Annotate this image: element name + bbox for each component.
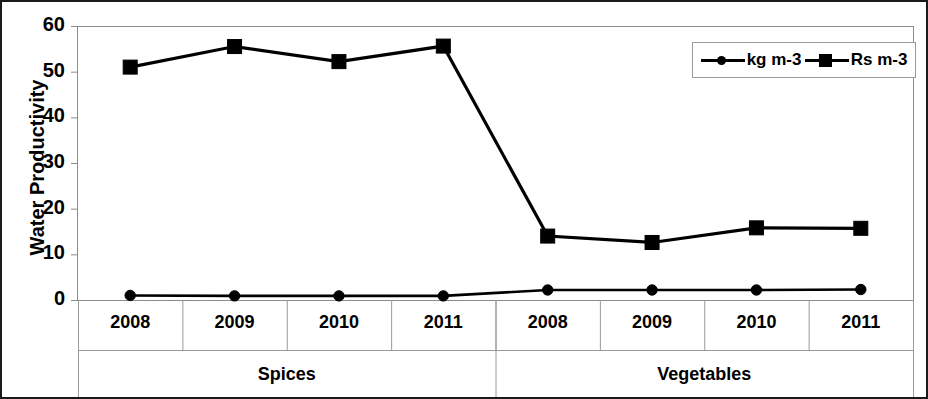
legend-item-rs: Rs m-3 [805,50,908,70]
y-tick-label: 40 [19,104,65,127]
data-point-marker [749,221,763,235]
data-point-marker [125,290,135,300]
x-tick-label: 2011 [391,312,495,333]
chart-legend: kg m-3 Rs m-3 [692,42,916,78]
data-point-marker [542,285,552,295]
circle-marker-icon [701,52,745,68]
square-marker-icon [805,52,849,68]
legend-label-rs: Rs m-3 [851,50,908,70]
data-point-marker [854,221,868,235]
y-axis-ticks [71,27,78,301]
x-tick-label: 2008 [496,312,600,333]
data-point-marker [647,285,657,295]
x-group-label: Vegetables [496,364,914,385]
y-tick-label: 20 [19,196,65,219]
water-productivity-chart: Water Productivity 0102030405060 2008200… [0,0,928,399]
data-point-marker [436,39,450,53]
data-point-marker [228,40,242,54]
data-point-marker [856,284,866,294]
legend-label-kg: kg m-3 [747,50,802,70]
x-group-label: Spices [78,364,496,385]
y-tick-label: 50 [19,59,65,82]
data-point-marker [334,291,344,301]
y-tick-label: 0 [19,287,65,310]
legend-item-kg: kg m-3 [701,50,802,70]
data-point-marker [751,285,761,295]
y-tick-label: 30 [19,150,65,173]
x-tick-label: 2011 [809,312,913,333]
y-tick-label: 60 [19,13,65,36]
data-point-marker [229,291,239,301]
data-point-marker [123,60,137,74]
x-tick-label: 2010 [287,312,391,333]
x-tick-label: 2008 [78,312,182,333]
x-tick-label: 2009 [600,312,704,333]
data-point-marker [332,55,346,69]
y-tick-label: 10 [19,241,65,264]
data-point-marker [541,229,555,243]
data-point-marker [645,235,659,249]
x-tick-label: 2009 [183,312,287,333]
x-tick-label: 2010 [704,312,808,333]
data-point-marker [438,291,448,301]
